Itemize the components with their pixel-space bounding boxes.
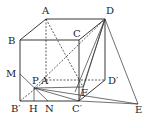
label-B: B	[8, 35, 15, 46]
label-A1: A′	[40, 75, 51, 86]
label-E: E	[135, 104, 142, 115]
label-D: D	[106, 5, 114, 16]
label-N: N	[45, 103, 54, 114]
label-C: C	[73, 28, 81, 39]
label-B1: B′	[11, 103, 21, 114]
label-D1: D′	[108, 75, 119, 86]
label-H: H	[29, 103, 38, 114]
label-P: P	[32, 75, 39, 86]
label-C1: C′	[72, 103, 83, 114]
label-F: F	[81, 87, 88, 98]
label-A: A	[41, 5, 50, 16]
cube-diagram: A D B C M P A′ D′ F B′ H N C′ E	[0, 0, 152, 128]
label-M: M	[6, 68, 16, 79]
point-labels: A D B C M P A′ D′ F B′ H N C′ E	[6, 5, 142, 115]
